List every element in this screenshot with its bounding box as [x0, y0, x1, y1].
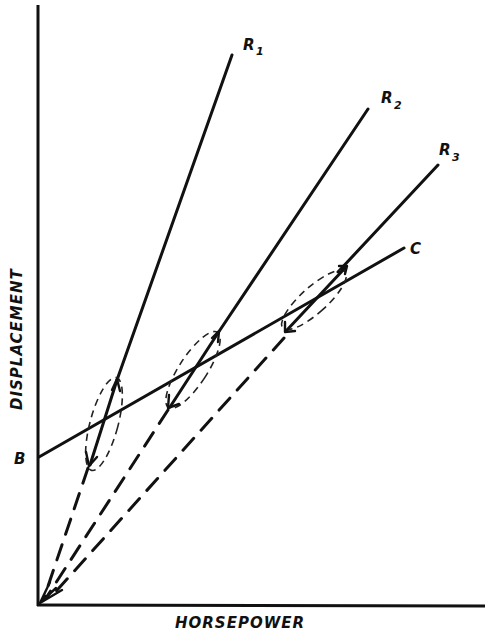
r3-subscript: 3 — [452, 151, 460, 164]
intercept-label-b: B — [14, 450, 25, 468]
transition-arrow-r3 — [287, 268, 345, 330]
y-axis-title: DISPLACEMENT — [8, 267, 26, 410]
r1-subscript: 1 — [256, 45, 264, 58]
transition-r3 — [274, 262, 354, 338]
displacement-horsepower-diagram: DISPLACEMENT HORSEPOWER B C R 1 R 2 R 3 — [0, 0, 485, 633]
transition-r1 — [78, 374, 130, 474]
line-r3-label: R 3 — [439, 141, 460, 164]
line-r2 — [218, 109, 368, 333]
line-c-label: C — [410, 240, 421, 258]
transition-arrow-r1 — [90, 380, 117, 465]
r1-letter: R — [243, 36, 255, 54]
line-r2-label: R 2 — [381, 89, 402, 112]
x-axis — [37, 605, 485, 606]
transition-r2 — [157, 325, 230, 416]
r3-letter: R — [439, 141, 451, 159]
line-r1-label: R 1 — [243, 36, 264, 58]
dashed-return-r2 — [46, 410, 168, 598]
line-c — [39, 248, 404, 457]
r2-subscript: 2 — [394, 99, 402, 112]
dashed-return-r3 — [50, 338, 284, 598]
axes — [37, 5, 485, 606]
origin-arrowhead-icon — [40, 582, 62, 603]
r2-letter: R — [381, 89, 393, 107]
x-axis-title: HORSEPOWER — [175, 614, 305, 632]
